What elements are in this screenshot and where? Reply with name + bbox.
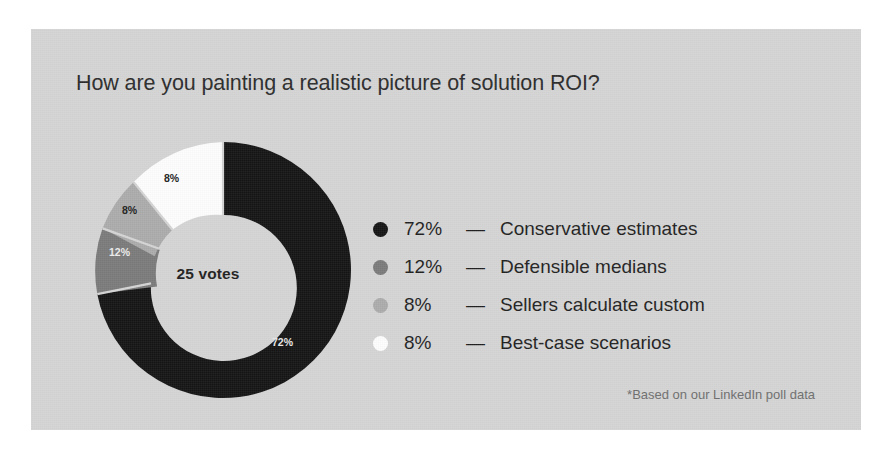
slice-label-8-white: 8% <box>164 172 180 184</box>
legend-dash-3: — <box>466 294 500 316</box>
slice-label-8-light: 8% <box>122 204 138 216</box>
legend-dash-4: — <box>466 332 500 354</box>
legend-label-conservative-estimates: Conservative estimates <box>500 218 697 240</box>
legend-percent-best-case-scenarios: 8% <box>404 332 466 354</box>
legend-item-sellers-calculate-custom: 8% — Sellers calculate custom <box>373 286 705 324</box>
legend-dot-best-case-scenarios <box>373 336 388 351</box>
slice-label-72: 72% <box>272 336 294 348</box>
legend-label-best-case-scenarios: Best-case scenarios <box>500 332 671 354</box>
chart-legend: 72% — Conservative estimates 12% — Defen… <box>373 210 705 362</box>
legend-dot-conservative-estimates <box>373 222 388 237</box>
legend-dash-1: — <box>466 218 500 240</box>
slice-label-12: 12% <box>109 246 131 258</box>
legend-label-sellers-calculate-custom: Sellers calculate custom <box>500 294 705 316</box>
poll-question-title: How are you painting a realistic picture… <box>76 71 776 96</box>
donut-chart-svg: 72% 12% 8% 8% <box>64 134 354 414</box>
legend-percent-defensible-medians: 12% <box>404 256 466 278</box>
legend-dot-defensible-medians <box>373 260 388 275</box>
legend-dash-2: — <box>466 256 500 278</box>
legend-item-best-case-scenarios: 8% — Best-case scenarios <box>373 324 705 362</box>
source-footnote: *Based on our LinkedIn poll data <box>627 387 815 402</box>
legend-label-defensible-medians: Defensible medians <box>500 256 667 278</box>
donut-chart: 72% 12% 8% 8% 25 votes <box>64 134 354 414</box>
legend-percent-conservative-estimates: 72% <box>404 218 466 240</box>
legend-item-conservative-estimates: 72% — Conservative estimates <box>373 210 705 248</box>
legend-item-defensible-medians: 12% — Defensible medians <box>373 248 705 286</box>
poll-result-card: How are you painting a realistic picture… <box>31 29 861 430</box>
legend-dot-sellers-calculate-custom <box>373 298 388 313</box>
legend-percent-sellers-calculate-custom: 8% <box>404 294 466 316</box>
